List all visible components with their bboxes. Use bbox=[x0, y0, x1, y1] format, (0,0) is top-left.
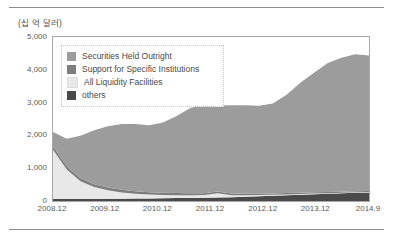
plot-area: Securities Held OutrightSupport for Spec… bbox=[52, 36, 370, 202]
legend-item: Support for Specific Institutions bbox=[67, 63, 217, 76]
y-axis-tick-label: 4,000 bbox=[27, 64, 47, 73]
chart-legend: Securities Held OutrightSupport for Spec… bbox=[61, 45, 224, 107]
y-axis-unit-label: (십 억 달러) bbox=[18, 16, 62, 28]
legend-item: All Liquidity Facilities bbox=[67, 76, 217, 89]
legend-swatch-icon bbox=[67, 91, 76, 100]
legend-item-label: Support for Specific Institutions bbox=[82, 64, 199, 75]
legend-swatch-icon bbox=[67, 77, 78, 88]
x-axis-tick-label: 2011.12 bbox=[196, 204, 224, 213]
x-axis-tick-label: 2010.12 bbox=[143, 204, 172, 213]
legend-item-label: others bbox=[82, 90, 106, 101]
x-axis-tick-label: 2009.12 bbox=[90, 204, 119, 213]
x-axis-tick-label: 2014.9 bbox=[356, 204, 380, 213]
legend-item-label: Securities Held Outright bbox=[82, 51, 172, 62]
y-axis-tick-label: 1,000 bbox=[27, 163, 47, 172]
x-axis-tick-label: 2008.12 bbox=[38, 204, 67, 213]
y-axis-tick-label: 2,000 bbox=[27, 130, 47, 139]
figure-container: (십 억 달러) 01,0002,0003,0004,0005,000 Secu… bbox=[0, 0, 393, 239]
legend-item: others bbox=[67, 89, 217, 102]
x-axis-tick-labels: 2008.122009.122010.122011.122012.122013.… bbox=[0, 204, 393, 218]
legend-swatch-icon bbox=[67, 65, 76, 74]
legend-item-label: All Liquidity Facilities bbox=[84, 77, 162, 88]
y-axis-tick-labels: 01,0002,0003,0004,0005,000 bbox=[0, 36, 47, 200]
legend-swatch-icon bbox=[67, 52, 76, 61]
bottom-divider-rule bbox=[9, 229, 384, 230]
top-divider-rule bbox=[9, 7, 384, 8]
x-axis-tick-label: 2013.12 bbox=[301, 204, 330, 213]
y-axis-tick-label: 3,000 bbox=[27, 97, 47, 106]
legend-item: Securities Held Outright bbox=[67, 50, 217, 63]
y-axis-tick-label: 5,000 bbox=[27, 32, 47, 41]
x-axis-tick-label: 2012.12 bbox=[248, 204, 277, 213]
